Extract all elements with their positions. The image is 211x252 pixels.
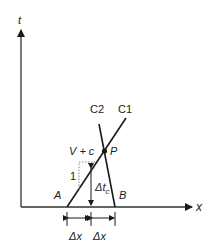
- characteristics-diagram: t x C1 C2 P V + c 1 Δtc A B Δx Δx: [0, 0, 211, 252]
- c1-characteristic-line: [67, 118, 126, 207]
- dx-right-label: Δx: [92, 230, 106, 242]
- t-axis-label: t: [18, 14, 22, 26]
- diagram-svg: t x C1 C2 P V + c 1 Δtc A B Δx Δx: [0, 0, 211, 252]
- point-p-label: P: [110, 145, 118, 157]
- c1-label: C1: [118, 103, 132, 115]
- dt-label: Δtc: [94, 181, 109, 196]
- speed-label: V + c: [69, 145, 95, 157]
- c2-label: C2: [90, 103, 104, 115]
- point-b-label: B: [119, 189, 126, 201]
- dx-left-label: Δx: [68, 230, 82, 242]
- x-axis-label: x: [195, 200, 203, 214]
- unit-label: 1: [70, 170, 76, 182]
- point-a-label: A: [53, 189, 61, 201]
- point-p: [102, 148, 107, 153]
